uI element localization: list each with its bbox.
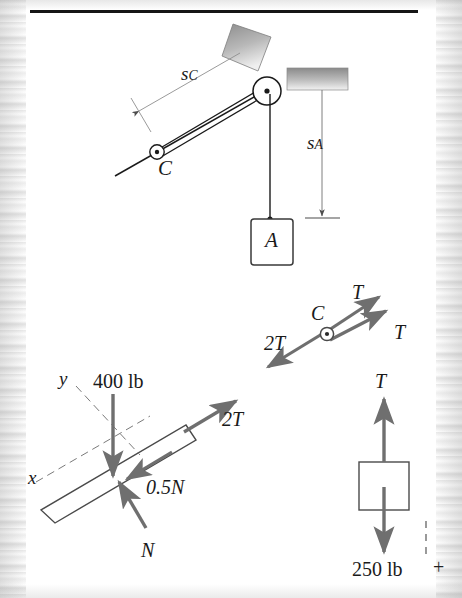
- label-tension-2t: 2T: [222, 409, 243, 429]
- label-weight-400lb: 400 lb: [93, 371, 144, 391]
- label-axis-x: x: [28, 468, 36, 487]
- inclined-block-body: [41, 425, 196, 523]
- axis-y-dashed: [76, 386, 140, 455]
- label-friction-05n: 0.5N: [146, 477, 184, 497]
- label-weight-250lb: 250 lb: [352, 559, 403, 579]
- label-axis-y: y: [59, 369, 67, 388]
- arrow-normal-n: [119, 482, 146, 528]
- figure-artwork: [0, 0, 462, 598]
- pulley-c-fbd-axle: [325, 332, 329, 336]
- label-pulley-fbd-tension-upper: T: [352, 282, 363, 302]
- main-pulley-axle: [264, 88, 269, 93]
- label-sa: sA: [307, 133, 323, 152]
- label-sign-convention: +: [433, 557, 444, 577]
- dimension-tick-sc: [131, 98, 151, 132]
- top-horizontal-rule: [30, 10, 418, 13]
- block-fbd-group: [36, 386, 236, 528]
- cord-strand-lower: [161, 95, 266, 157]
- label-pulley-fbd-resultant: 2T: [264, 333, 285, 353]
- weight-fbd-group: [359, 399, 426, 560]
- pulley-fbd-group: [268, 297, 386, 367]
- label-pulley-fbd-tension-lower: T: [394, 322, 405, 342]
- scanned-figure-page: sC sA C A T T C 2T 400 lb 2T 0.5N N x y …: [0, 0, 462, 598]
- incline-support-block: [222, 24, 271, 71]
- cord-strand-upper: [157, 88, 262, 150]
- label-sc: sC: [181, 64, 198, 83]
- label-pulley-c: C: [158, 158, 172, 179]
- label-pulley-fbd-center: C: [311, 303, 324, 323]
- label-block-a: A: [265, 230, 278, 251]
- ceiling-support-block: [287, 68, 348, 90]
- inclined-plane-line: [115, 89, 268, 176]
- label-weight-fbd-tension: T: [375, 371, 386, 391]
- pulley-c-axle: [155, 150, 159, 154]
- label-normal-n: N: [141, 540, 154, 560]
